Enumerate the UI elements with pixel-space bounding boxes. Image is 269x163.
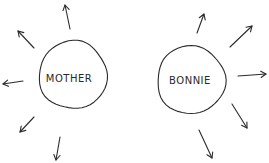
diagram-canvas: MOTHER BONNIE: [0, 0, 269, 163]
diagram-drawing: [0, 0, 269, 163]
bonnie-label: BONNIE: [169, 75, 211, 86]
mother-arrow-down-icon: [54, 137, 60, 160]
mother-arrow-left-icon: [3, 80, 23, 86]
bonnie-arrow-down-icon: [199, 130, 213, 158]
bonnie-arrow-up-right-icon: [230, 26, 252, 47]
mother-label: MOTHER: [46, 73, 92, 84]
bonnie-arrow-up-icon: [197, 14, 205, 33]
mother-arrow-down-left-icon: [20, 117, 34, 132]
bonnie-arrow-down-right-icon: [232, 104, 247, 128]
bonnie-arrow-right-icon: [238, 71, 266, 77]
mother-arrow-up-icon: [63, 5, 70, 29]
mother-arrow-up-left-icon: [18, 31, 34, 48]
